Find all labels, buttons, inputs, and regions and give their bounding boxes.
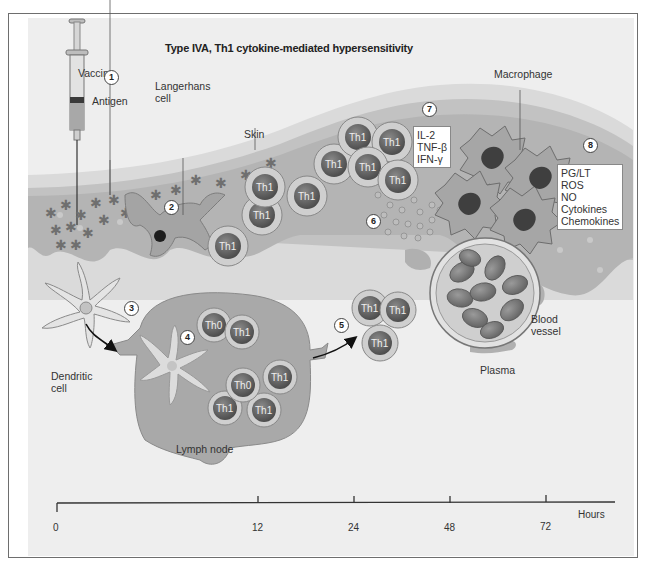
svg-text:✱: ✱ xyxy=(75,207,87,223)
mediator-pg-lt: PG/LT xyxy=(561,167,619,179)
svg-text:✱: ✱ xyxy=(90,195,102,211)
cell-label-th1: Th1 xyxy=(233,327,250,339)
cell-label-th1: Th1 xyxy=(219,241,236,253)
diagram-illustration: ✱✱✱✱ ✱✱✱✱ ✱✱✱✱ ✱✱✱✱ ✱✱✱✱ xyxy=(0,0,647,580)
cell-label-th1: Th1 xyxy=(256,182,273,194)
cell-label-th1: Th1 xyxy=(271,372,288,384)
timeline-tick-0: 0 xyxy=(53,522,59,533)
mediator-chemokines: Chemokines xyxy=(561,215,619,227)
cell-label-th0: Th0 xyxy=(205,320,222,332)
step-4-badge: 4 xyxy=(180,330,195,345)
timeline-tick-72: 72 xyxy=(540,521,551,532)
label-dendritic-line2: cell xyxy=(51,382,67,394)
blood-vessel xyxy=(430,238,540,348)
label-antigen: Antigen xyxy=(92,95,128,107)
label-macrophage: Macrophage xyxy=(494,68,552,80)
cytokine-list-box: IL-2 TNF-β IFN-γ xyxy=(413,126,451,168)
cell-label-th1: Th1 xyxy=(371,338,388,350)
timeline-unit-label: Hours xyxy=(578,509,605,520)
figure-title: Type IVA, Th1 cytokine-mediated hypersen… xyxy=(165,42,413,54)
cell-label-th1: Th1 xyxy=(383,137,400,149)
label-plasma: Plasma xyxy=(480,364,515,376)
cell-label-th1: Th1 xyxy=(349,132,366,144)
timeline-tick-48: 48 xyxy=(444,522,455,533)
cytokine-ifn-gamma: IFN-γ xyxy=(417,153,447,165)
timeline-axis xyxy=(57,495,615,512)
cell-label-th0: Th0 xyxy=(234,380,251,392)
label-langerhans-line1: Langerhans xyxy=(155,80,210,92)
step-7-badge: 7 xyxy=(422,102,437,117)
svg-text:✱: ✱ xyxy=(65,219,77,235)
cell-label-th1: Th1 xyxy=(359,162,376,174)
svg-text:✱: ✱ xyxy=(70,237,82,253)
label-blood-line1: Blood xyxy=(531,313,558,325)
svg-text:✱: ✱ xyxy=(190,172,202,188)
svg-text:✱: ✱ xyxy=(170,182,182,198)
th1-cells-circulating xyxy=(352,290,416,361)
label-dendritic-line1: Dendritic xyxy=(51,370,92,382)
svg-text:✱: ✱ xyxy=(98,212,110,228)
cell-label-th1: Th1 xyxy=(389,305,406,317)
mediator-cytokines: Cytokines xyxy=(561,203,619,215)
label-langerhans-line2: cell xyxy=(155,92,171,104)
cell-label-th1: Th1 xyxy=(361,303,378,315)
timeline-tick-24: 24 xyxy=(348,522,359,533)
step-5-badge: 5 xyxy=(334,318,349,333)
cell-label-th1: Th1 xyxy=(325,159,342,171)
cell-label-th1: Th1 xyxy=(389,175,406,187)
svg-text:✱: ✱ xyxy=(82,225,94,241)
cell-label-th1: Th1 xyxy=(253,210,270,222)
mediator-ros: ROS xyxy=(561,179,619,191)
label-lymph-node: Lymph node xyxy=(176,443,233,455)
lymph-node xyxy=(110,293,328,465)
mediator-no: NO xyxy=(561,191,619,203)
step-6-badge: 6 xyxy=(366,214,381,229)
svg-text:✱: ✱ xyxy=(215,175,227,191)
svg-text:✱: ✱ xyxy=(45,205,57,221)
step-8-badge: 8 xyxy=(583,138,598,153)
cytokine-tnf-beta: TNF-β xyxy=(417,141,447,153)
cytokine-il2: IL-2 xyxy=(417,129,447,141)
mediator-list-box: PG/LT ROS NO Cytokines Chemokines xyxy=(557,164,623,230)
step-3-badge: 3 xyxy=(124,301,139,316)
label-blood-line2: vessel xyxy=(531,325,561,337)
label-skin: Skin xyxy=(244,128,264,140)
svg-text:✱: ✱ xyxy=(150,187,162,203)
step-1-badge: 1 xyxy=(104,70,119,85)
timeline-tick-12: 12 xyxy=(252,522,263,533)
step-2-badge: 2 xyxy=(164,200,179,215)
cell-label-th1: Th1 xyxy=(216,403,233,415)
svg-text:✱: ✱ xyxy=(50,222,62,238)
cell-label-th1: Th1 xyxy=(298,191,315,203)
cell-label-th1: Th1 xyxy=(255,405,272,417)
svg-text:✱: ✱ xyxy=(60,197,72,213)
svg-text:✱: ✱ xyxy=(55,237,67,253)
